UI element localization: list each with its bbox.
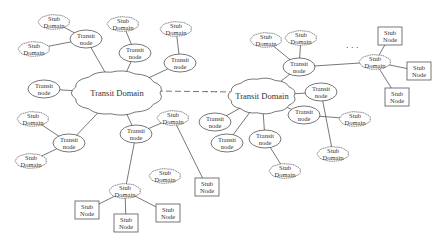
node-label-line1: Stub bbox=[27, 112, 39, 119]
node-label-line1: Transit bbox=[256, 132, 274, 139]
node-label-line1: Transit bbox=[171, 56, 189, 63]
stub-node-sn6: StubNode bbox=[407, 62, 431, 80]
ellipsis-mark: . . . bbox=[346, 40, 359, 50]
node-label-line2: node bbox=[63, 143, 76, 150]
stub-domain-sd9: StubDomain bbox=[109, 184, 140, 199]
node-label-line2: Domain bbox=[275, 171, 297, 178]
node-label-line1: Stub bbox=[170, 22, 182, 29]
stub-domain-sd15: StubDomain bbox=[269, 164, 300, 179]
node-label-line2: node bbox=[221, 143, 234, 150]
node-label-line2: Node bbox=[161, 213, 175, 220]
stub-domain-sd3: StubDomain bbox=[107, 17, 138, 32]
node-label-line1: Stub bbox=[260, 33, 272, 40]
stub-domain-sd13: StubDomain bbox=[339, 112, 370, 127]
nodes-layer: Transit DomainTransit DomainTransitnodeT… bbox=[15, 15, 431, 232]
node-label-line2: Domain bbox=[44, 22, 66, 29]
node-label-line1: Transit bbox=[60, 136, 78, 143]
node-label-line1: Transit bbox=[35, 82, 53, 89]
transit-domain-label: Transit Domain bbox=[235, 91, 289, 101]
node-label-line1: Transit bbox=[127, 127, 145, 134]
node-label-line1: Transit bbox=[312, 85, 330, 92]
node-label-line2: Domain bbox=[345, 119, 367, 126]
node-label-line1: Stub bbox=[369, 55, 381, 62]
node-label-line1: Stub bbox=[413, 64, 425, 71]
node-label-line1: Stub bbox=[349, 112, 361, 119]
stub-node-sn2: StubNode bbox=[114, 214, 138, 232]
transit-node-tn8: Transitnode bbox=[305, 83, 337, 101]
stub-domain-sd14: StubDomain bbox=[317, 147, 348, 162]
node-label-line1: Stub bbox=[327, 147, 339, 154]
stub-node-sn5: StubNode bbox=[378, 27, 402, 45]
node-label-line2: Domain bbox=[115, 191, 137, 198]
node-label-line2: Domain bbox=[155, 176, 177, 183]
node-label-line1: Stub bbox=[167, 111, 179, 118]
node-label-line2: Domain bbox=[24, 49, 46, 56]
node-label-line2: node bbox=[298, 115, 311, 122]
transit-node-tn3: Transitnode bbox=[164, 54, 196, 72]
stub-node-sn7: StubNode bbox=[385, 88, 409, 106]
stub-domain-sd2: StubDomain bbox=[18, 42, 49, 57]
node-label-line1: Stub bbox=[119, 184, 131, 191]
transit-node-tn9: Transitnode bbox=[199, 113, 231, 131]
node-label-line1: Stub bbox=[81, 203, 93, 210]
node-label-line2: Domain bbox=[291, 38, 313, 45]
node-label-line2: Domain bbox=[23, 119, 45, 126]
node-label-line2: node bbox=[129, 53, 142, 60]
node-label-line1: Stub bbox=[117, 17, 129, 24]
stub-domain-sd6: StubDomain bbox=[15, 154, 46, 169]
stub-domain-sd5: StubDomain bbox=[17, 112, 48, 127]
node-label-line1: Stub bbox=[48, 15, 60, 22]
transit-node-tn4: Transitnode bbox=[28, 80, 60, 98]
stub-domain-sd11: StubDomain bbox=[285, 31, 316, 46]
node-label-line2: node bbox=[315, 92, 328, 99]
node-label-line2: node bbox=[209, 122, 222, 129]
node-label-line2: Domain bbox=[166, 29, 188, 36]
node-label-line1: Stub bbox=[120, 216, 132, 223]
stub-domain-sd10: StubDomain bbox=[250, 33, 281, 48]
node-label-line2: Domain bbox=[21, 161, 43, 168]
node-label-line2: Node bbox=[80, 210, 94, 217]
node-label-line2: Domain bbox=[365, 62, 387, 69]
stub-domain-sd4: StubDomain bbox=[160, 22, 191, 37]
node-label-line1: Transit bbox=[126, 46, 144, 53]
node-label-line1: Stub bbox=[279, 164, 291, 171]
transit-node-tn10: Transitnode bbox=[211, 134, 243, 152]
node-label-line1: Transit bbox=[290, 60, 308, 67]
transit-node-tn6: Transitnode bbox=[120, 125, 152, 143]
stub-node-sn1: StubNode bbox=[75, 201, 99, 219]
node-label-line1: Stub bbox=[162, 206, 174, 213]
node-label-line2: node bbox=[174, 63, 187, 70]
node-label-line1: Stub bbox=[295, 31, 307, 38]
node-label-line1: Stub bbox=[28, 42, 40, 49]
node-label-line2: node bbox=[80, 39, 93, 46]
transit-domain-td1: Transit Domain bbox=[71, 71, 161, 115]
stub-node-sn3: StubNode bbox=[156, 204, 180, 222]
node-label-line1: Stub bbox=[159, 169, 171, 176]
node-label-line2: Node bbox=[200, 187, 214, 194]
stub-domain-sd12: StubDomain bbox=[359, 55, 390, 70]
node-label-line2: Domain bbox=[256, 40, 278, 47]
transit-node-tn1: Transitnode bbox=[70, 30, 102, 48]
node-label-line2: Domain bbox=[113, 24, 135, 31]
network-topology-diagram: Transit DomainTransit DomainTransitnodeT… bbox=[0, 0, 447, 243]
node-label-line2: Domain bbox=[163, 118, 185, 125]
node-label-line1: Transit bbox=[218, 136, 236, 143]
node-label-line1: Stub bbox=[391, 90, 403, 97]
transit-node-tn11: Transitnode bbox=[249, 130, 281, 148]
stub-domain-sd7: StubDomain bbox=[157, 111, 188, 126]
transit-domain-label: Transit Domain bbox=[90, 88, 144, 98]
node-label-line1: Stub bbox=[201, 180, 213, 187]
node-label-line1: Stub bbox=[25, 154, 37, 161]
node-label-line2: Node bbox=[390, 97, 404, 104]
node-label-line2: Node bbox=[412, 71, 426, 78]
transit-domain-td2: Transit Domain bbox=[228, 78, 295, 114]
transit-node-tn12: Transitnode bbox=[288, 106, 320, 124]
node-label-line2: node bbox=[259, 139, 272, 146]
node-label-line2: node bbox=[38, 89, 51, 96]
transit-node-tn5: Transitnode bbox=[53, 134, 85, 152]
node-label-line1: Transit bbox=[77, 32, 95, 39]
node-label-line1: Transit bbox=[206, 115, 224, 122]
node-label-line2: Node bbox=[119, 223, 133, 230]
inter-domain-link bbox=[157, 91, 232, 92]
node-label-line2: Domain bbox=[323, 154, 345, 161]
